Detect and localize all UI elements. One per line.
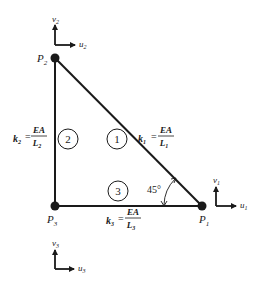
p3-dof-axes: v3 u3 [52,238,86,274]
element-1-number: 1 [114,133,120,145]
node-p2-label: P2 [36,52,48,67]
svg-text:=: = [118,213,124,224]
svg-text:EA: EA [32,125,45,135]
angle-label: 45° [147,184,161,195]
svg-text:L1: L1 [159,138,169,149]
node-p3-label: P3 [46,213,58,228]
svg-text:=: = [25,131,31,142]
p2-dof-axes: v2 u2 [52,14,87,50]
node-p1-dot [198,202,207,211]
svg-text:L2: L2 [32,138,42,149]
v2-label: v2 [52,14,59,25]
v1-label: v1 [213,175,220,186]
k1-label: k1 = EA L1 [138,125,174,149]
svg-text:k2: k2 [13,133,21,145]
element-2-number: 2 [65,133,71,145]
node-p2-dot [51,54,60,63]
svg-text:EA: EA [159,125,172,135]
k2-label: k2 = EA L2 [13,125,47,149]
svg-text:L3: L3 [126,220,136,231]
element-2-marker: 2 [58,129,78,149]
k3-label: k3 = EA L3 [106,207,141,231]
node-p3-dot [51,202,60,211]
u3-label: u3 [78,263,86,274]
svg-text:k1: k1 [138,133,146,145]
element-3-number: 3 [115,185,121,197]
p1-dof-axes: v1 u1 [213,175,248,211]
angle-arc-icon [164,179,175,205]
svg-text:=: = [151,131,157,142]
element-1-bar [55,58,202,206]
element-3-marker: 3 [108,181,128,201]
v3-label: v3 [52,238,59,249]
svg-text:k3: k3 [106,215,114,227]
truss-diagram: P2 P3 P1 v2 u2 v1 u1 v3 u3 [0,0,262,284]
u1-label: u1 [240,200,248,211]
node-p1-label: P1 [198,213,209,228]
element-1-marker: 1 [107,129,127,149]
u2-label: u2 [79,39,87,50]
angle-indicator: 45° [147,178,176,206]
svg-text:EA: EA [126,207,139,217]
